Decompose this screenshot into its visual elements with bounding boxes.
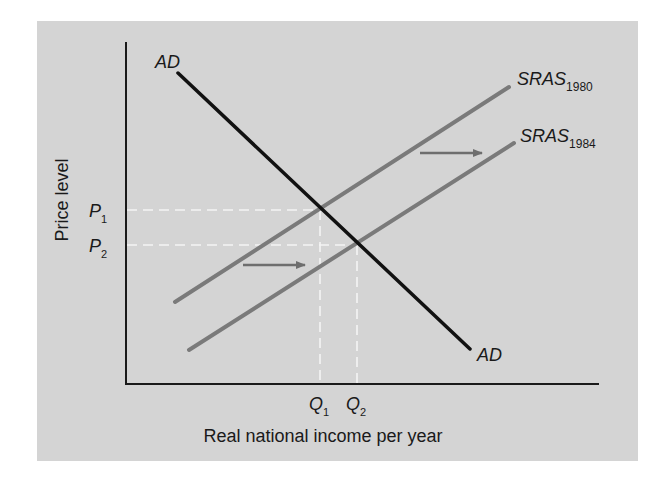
- q1-label: Q1: [309, 394, 329, 418]
- q2-label-main: Q: [346, 394, 360, 414]
- p1-label-main: P: [89, 201, 101, 221]
- p2-label-sub: 2: [101, 248, 107, 260]
- ad-curve: [178, 73, 470, 349]
- x-axis-title: Real national income per year: [203, 426, 442, 446]
- sras-1984-label: SRAS1984: [520, 126, 596, 151]
- sras-1984-label-main: SRAS: [520, 126, 569, 146]
- ad-label-bottom: AD: [476, 345, 502, 365]
- p1-label: P1: [89, 201, 107, 225]
- p2-label-main: P: [89, 236, 101, 256]
- y-axis-title: Price level: [52, 158, 72, 241]
- q2-label-sub: 2: [360, 406, 366, 418]
- q1-label-sub: 1: [323, 406, 329, 418]
- chart-svg: AD AD SRAS1980 SRAS1984 P1 P2 Q1 Q2 Real…: [0, 0, 666, 481]
- sras-1980-label-sub: 1980: [566, 80, 593, 94]
- sras-1980-label-main: SRAS: [517, 69, 566, 89]
- p2-label: P2: [89, 236, 107, 260]
- sras-1984-label-sub: 1984: [569, 137, 596, 151]
- q2-label: Q2: [346, 394, 366, 418]
- ad-label-top: AD: [154, 52, 180, 72]
- sras-1980-label: SRAS1980: [517, 69, 593, 94]
- sras-1984-curve: [189, 143, 514, 350]
- q1-label-main: Q: [309, 394, 323, 414]
- p1-label-sub: 1: [101, 213, 107, 225]
